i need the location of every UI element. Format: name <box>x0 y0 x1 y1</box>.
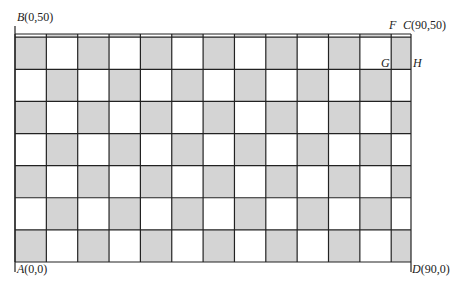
shaded-cell <box>15 230 46 262</box>
shaded-cell <box>140 230 171 262</box>
shaded-cell <box>172 134 203 166</box>
shaded-cell <box>297 134 328 166</box>
unshaded-cell <box>46 101 77 133</box>
unshaded-cell <box>15 134 46 166</box>
unshaded-cell <box>329 198 360 230</box>
shaded-cell <box>46 69 77 101</box>
unshaded-cell <box>203 69 234 101</box>
unshaded-cell <box>46 37 77 69</box>
shaded-cell <box>329 37 360 69</box>
shaded-cell <box>266 101 297 133</box>
shaded-cell <box>266 166 297 198</box>
shaded-cell <box>46 134 77 166</box>
unshaded-cell <box>329 134 360 166</box>
shaded-cell <box>391 230 411 262</box>
shaded-cell <box>391 37 411 69</box>
unshaded-cell <box>203 198 234 230</box>
point-label-A: A(0,0) <box>16 262 47 276</box>
shaded-cell <box>46 198 77 230</box>
shaded-cell <box>203 101 234 133</box>
unshaded-cell <box>172 230 203 262</box>
shaded-cell <box>234 69 265 101</box>
unshaded-cell <box>15 198 46 230</box>
unshaded-cell <box>391 134 411 166</box>
shaded-cell <box>203 37 234 69</box>
shaded-cell <box>391 101 411 133</box>
shaded-cell <box>297 69 328 101</box>
unshaded-cell <box>15 69 46 101</box>
shaded-cell <box>234 198 265 230</box>
unshaded-cell <box>297 37 328 69</box>
unshaded-cell <box>360 166 391 198</box>
unshaded-cell <box>78 69 109 101</box>
point-label-C: C(90,50) <box>403 18 446 32</box>
unshaded-cell <box>234 37 265 69</box>
unshaded-cell <box>203 134 234 166</box>
shaded-cell <box>140 101 171 133</box>
unshaded-cell <box>46 166 77 198</box>
unshaded-cell <box>391 198 411 230</box>
point-label-B: B(0,50) <box>17 10 53 24</box>
shaded-cell <box>109 198 140 230</box>
grid-cells <box>15 34 411 262</box>
shaded-cell <box>172 198 203 230</box>
unshaded-cell <box>297 166 328 198</box>
shaded-cell <box>203 230 234 262</box>
shaded-cell <box>391 166 411 198</box>
unshaded-cell <box>329 69 360 101</box>
unshaded-cell <box>234 101 265 133</box>
unshaded-cell <box>109 230 140 262</box>
shaded-cell <box>203 166 234 198</box>
shaded-cell <box>360 69 391 101</box>
shaded-cell <box>360 198 391 230</box>
shaded-cell <box>15 37 46 69</box>
shaded-cell <box>109 134 140 166</box>
unshaded-cell <box>360 230 391 262</box>
checkerboard-diagram: B(0,50) A(0,0) C(90,50) D(90,0) F G H <box>0 0 464 286</box>
unshaded-cell <box>266 198 297 230</box>
point-label-G: G <box>381 56 390 70</box>
point-label-F: F <box>388 18 397 32</box>
unshaded-cell <box>297 230 328 262</box>
unshaded-cell <box>78 198 109 230</box>
shaded-cell <box>78 37 109 69</box>
unshaded-cell <box>234 166 265 198</box>
unshaded-cell <box>234 230 265 262</box>
shaded-cell <box>15 101 46 133</box>
point-label-D: D(90,0) <box>411 262 450 276</box>
shaded-cell <box>15 166 46 198</box>
unshaded-cell <box>391 69 411 101</box>
shaded-cell <box>360 134 391 166</box>
shaded-cell <box>266 37 297 69</box>
shaded-cell <box>329 101 360 133</box>
unshaded-cell <box>78 134 109 166</box>
shaded-cell <box>172 69 203 101</box>
unshaded-cell <box>140 198 171 230</box>
unshaded-cell <box>109 101 140 133</box>
shaded-cell <box>140 37 171 69</box>
shaded-cell <box>78 101 109 133</box>
shaded-cell <box>78 230 109 262</box>
shaded-cell <box>266 230 297 262</box>
shaded-cell <box>234 134 265 166</box>
shaded-cell <box>109 69 140 101</box>
unshaded-cell <box>297 101 328 133</box>
unshaded-cell <box>140 69 171 101</box>
shaded-cell <box>78 166 109 198</box>
unshaded-cell <box>140 134 171 166</box>
shaded-cell <box>329 166 360 198</box>
shaded-cell <box>297 198 328 230</box>
point-label-H: H <box>412 56 423 70</box>
unshaded-cell <box>172 166 203 198</box>
unshaded-cell <box>109 37 140 69</box>
unshaded-cell <box>109 166 140 198</box>
unshaded-cell <box>46 230 77 262</box>
unshaded-cell <box>360 101 391 133</box>
unshaded-cell <box>172 37 203 69</box>
unshaded-cell <box>266 134 297 166</box>
shaded-cell <box>140 166 171 198</box>
shaded-cell <box>329 230 360 262</box>
unshaded-cell <box>172 101 203 133</box>
unshaded-cell <box>266 69 297 101</box>
